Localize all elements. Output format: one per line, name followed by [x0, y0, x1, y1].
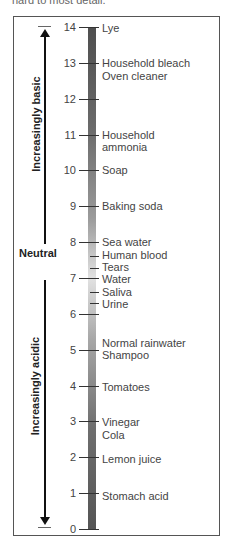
- minor-tick-human-blood: [90, 256, 99, 257]
- tick-number: 5: [56, 344, 76, 356]
- label-normal-rainwater: Normal rainwater: [102, 337, 186, 350]
- tick-number: 14: [56, 21, 76, 33]
- label-sea-water: Sea water: [102, 236, 152, 249]
- major-tick: [79, 529, 99, 530]
- label-shampoo: Shampoo: [102, 349, 149, 362]
- tick-number: 12: [56, 93, 76, 105]
- label-lye: Lye: [102, 22, 119, 35]
- tick-number: 11: [56, 129, 76, 141]
- major-tick: [79, 170, 99, 171]
- label-oven-cleaner: Oven cleaner: [102, 70, 167, 83]
- major-tick: [79, 421, 99, 422]
- major-tick: [79, 386, 99, 387]
- arrow-down-icon: [40, 517, 50, 525]
- major-tick: [79, 278, 99, 279]
- tick-number: 6: [56, 308, 76, 320]
- minor-tick-tears: [90, 268, 99, 269]
- major-tick: [79, 350, 99, 351]
- major-tick: [79, 457, 99, 458]
- minor-tick-saliva: [90, 292, 99, 293]
- label-urine: Urine: [102, 298, 128, 311]
- label-cola: Cola: [102, 429, 125, 442]
- tick-number: 8: [56, 236, 76, 248]
- tick-number: 3: [56, 415, 76, 427]
- basic-axis-line: [44, 36, 46, 244]
- label-household-bleach: Household bleach: [102, 57, 190, 70]
- tick-number: 2: [56, 451, 76, 463]
- label-human-blood: Human blood: [102, 249, 167, 262]
- label-vinegar: Vinegar: [102, 416, 140, 429]
- label-baking-soda: Baking soda: [102, 200, 163, 213]
- major-tick: [79, 63, 99, 64]
- minor-tick-urine: [90, 303, 99, 304]
- major-tick: [79, 242, 99, 243]
- major-tick: [79, 206, 99, 207]
- major-tick: [79, 27, 99, 28]
- tick-number: 4: [56, 380, 76, 392]
- label-saliva: Saliva: [102, 286, 132, 299]
- major-tick: [79, 99, 99, 100]
- label-soap: Soap: [102, 164, 128, 177]
- label-lemon-juice: Lemon juice: [102, 453, 161, 466]
- increasingly-acidic-label: Increasingly acidic: [29, 334, 41, 438]
- label-stomach-acid: Stomach acid: [102, 490, 169, 503]
- label-tomatoes: Tomatoes: [102, 381, 150, 394]
- label-household: Household: [102, 129, 155, 142]
- label-water: Water: [102, 273, 131, 286]
- label-ammonia: ammonia: [102, 141, 147, 154]
- bottom-cap-line: [38, 527, 51, 528]
- tick-number: 7: [56, 272, 76, 284]
- label-tears: Tears: [102, 261, 129, 274]
- top-cap-line: [38, 26, 51, 27]
- major-tick: [79, 493, 99, 494]
- increasingly-basic-label: Increasingly basic: [30, 73, 42, 174]
- major-tick: [79, 314, 99, 315]
- neutral-label: Neutral: [19, 245, 57, 261]
- tick-number: 0: [56, 523, 76, 535]
- tick-number: 1: [56, 487, 76, 499]
- tick-number: 10: [56, 164, 76, 176]
- tick-number: 9: [56, 200, 76, 212]
- major-tick: [79, 135, 99, 136]
- cropped-caption-text: hard to most detail.: [12, 0, 106, 6]
- acidic-axis-line: [44, 280, 46, 518]
- tick-number: 13: [56, 57, 76, 69]
